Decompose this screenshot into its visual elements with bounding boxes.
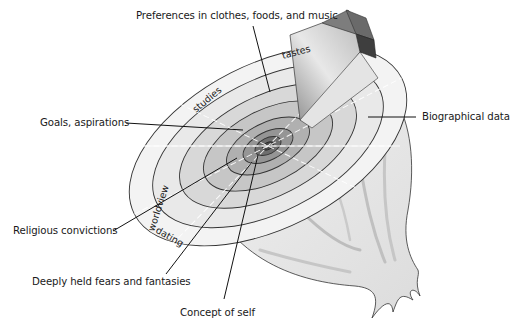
callout-goals: Goals, aspirations	[40, 117, 129, 129]
callout-concept: Concept of self	[180, 307, 255, 319]
callout-religious: Religious convictions	[13, 225, 118, 237]
callout-preferences: Preferences in clothes, foods, and music	[136, 10, 338, 22]
callout-biographical: Biographical data	[422, 111, 510, 123]
callout-fears: Deeply held fears and fantasies	[32, 276, 191, 288]
